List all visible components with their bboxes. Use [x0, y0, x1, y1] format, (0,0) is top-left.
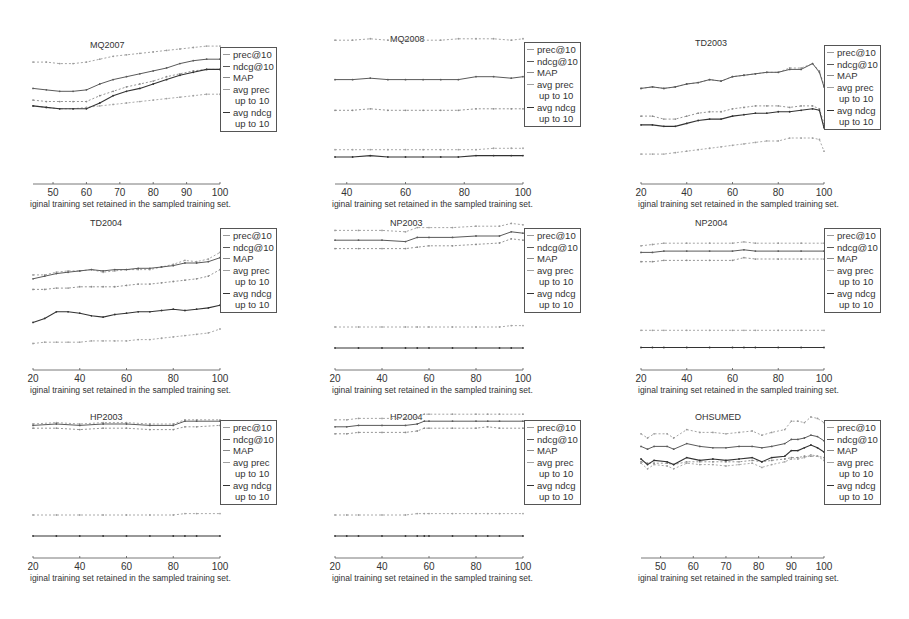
legend-label-sub: up to 10: [827, 491, 878, 503]
x-axis-label: iginal training set retained in the samp…: [638, 573, 839, 583]
x-tick-label: 70: [720, 561, 731, 572]
x-tick-label: 80: [753, 561, 764, 572]
x-tick-label: 90: [786, 561, 797, 572]
legend-marker-icon: [827, 427, 834, 428]
legend-label: MAP: [837, 445, 858, 456]
legend-label: avg prec: [837, 457, 873, 468]
series-line-prec-10: [641, 417, 824, 438]
legend-label: prec@10: [837, 422, 876, 433]
legend-item: prec@10: [827, 422, 878, 434]
legend-item: MAP: [827, 445, 878, 457]
x-tick-label: 100: [816, 561, 833, 572]
x-tick-label: 60: [688, 561, 699, 572]
series-line-ndcg-10: [641, 435, 824, 449]
legend-marker-icon: [827, 439, 834, 440]
series-line-map: [641, 456, 824, 464]
legend-marker-icon: [827, 485, 834, 486]
legend-item: avg ndcg: [827, 480, 878, 492]
legend-label-sub: up to 10: [827, 468, 878, 480]
legend-marker-icon: [827, 450, 834, 451]
legend-item: ndcg@10: [827, 434, 878, 446]
legend-marker-icon: [827, 462, 834, 463]
plot-area: [0, 0, 909, 619]
legend: prec@10ndcg@10MAPavg precup to 10avg ndc…: [824, 420, 881, 505]
legend-label: avg ndcg: [837, 480, 876, 491]
legend-label: ndcg@10: [837, 434, 878, 445]
x-tick-label: 50: [655, 561, 666, 572]
legend-item: avg prec: [827, 457, 878, 469]
